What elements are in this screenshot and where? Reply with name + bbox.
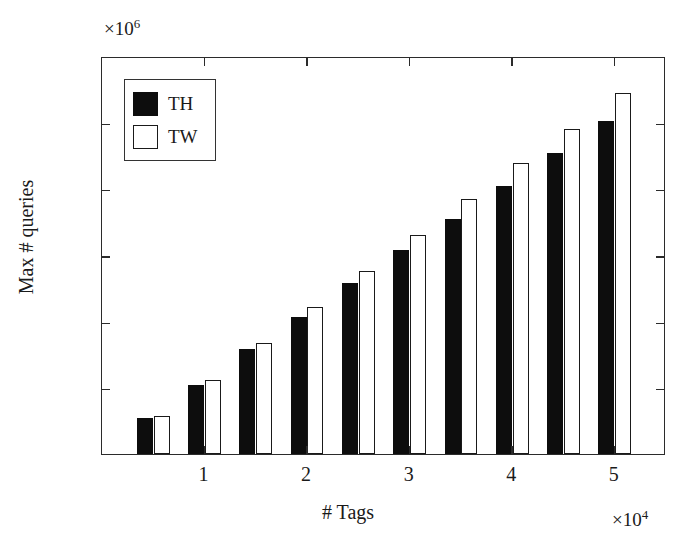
y-tick-mark-5: [656, 124, 664, 125]
bar-tw-10: [615, 93, 631, 454]
bar-tw-6: [410, 235, 426, 454]
y-tick-mark-2: [656, 323, 664, 324]
y-tick-mark-2: [102, 323, 110, 324]
x-tick-label-1: 2: [281, 463, 331, 485]
bar-tw-8: [513, 163, 529, 454]
y-tick-mark-3: [656, 256, 664, 257]
x-tick-mark-3: [511, 58, 512, 66]
x-tick-mark-4: [614, 58, 615, 66]
x-tick-label-0: 1: [179, 463, 229, 485]
legend-entry-th: TH: [133, 87, 209, 120]
x-tick-mark-0: [204, 446, 205, 454]
y-axis-exponent-base: ×10: [104, 18, 134, 39]
x-tick-mark-0: [204, 58, 205, 66]
bar-th-5: [342, 283, 358, 454]
bar-tw-7: [461, 199, 477, 454]
bar-th-9: [547, 153, 563, 454]
x-tick-mark-4: [614, 446, 615, 454]
bar-tw-2: [205, 380, 221, 454]
x-axis-exponent-base: ×10: [612, 509, 642, 530]
x-tick-mark-1: [306, 58, 307, 66]
bar-tw-9: [564, 129, 580, 454]
bar-th-6: [393, 250, 409, 454]
x-tick-label-3: 4: [486, 463, 536, 485]
y-tick-mark-1: [102, 389, 110, 390]
bar-th-2: [188, 385, 204, 454]
bar-th-3: [239, 349, 255, 454]
bar-th-10: [598, 121, 614, 454]
y-tick-mark-3: [102, 256, 110, 257]
x-tick-label-4: 5: [589, 463, 639, 485]
bar-tw-5: [359, 271, 375, 454]
legend-swatch-tw-icon: [133, 125, 158, 149]
legend-swatch-th-icon: [133, 92, 158, 116]
y-axis-exponent-power: 6: [134, 16, 141, 31]
legend-entry-tw: TW: [133, 120, 209, 153]
y-tick-mark-1: [656, 389, 664, 390]
x-tick-label-2: 3: [384, 463, 434, 485]
y-tick-mark-5: [102, 124, 110, 125]
bar-th-1: [137, 418, 153, 454]
bar-th-8: [496, 186, 512, 454]
legend-label-tw: TW: [168, 127, 198, 147]
bar-tw-3: [256, 343, 272, 454]
plot-area: TH TW: [101, 57, 665, 455]
chart-legend: TH TW: [124, 79, 216, 161]
x-tick-mark-3: [511, 446, 512, 454]
y-axis-exponent: ×106: [104, 14, 140, 39]
x-axis-exponent-power: 4: [642, 507, 649, 522]
y-tick-mark-4: [656, 190, 664, 191]
x-axis-exponent: ×104: [612, 505, 648, 530]
y-axis-label: Max # queries: [15, 147, 37, 327]
bar-th-4: [291, 317, 307, 454]
bar-tw-4: [307, 307, 323, 454]
legend-label-th: TH: [168, 94, 193, 114]
bar-tw-1: [154, 416, 170, 454]
y-tick-mark-4: [102, 190, 110, 191]
bar-chart-figure: ×106 Max # queries TH TW 00.511.522.5312…: [0, 0, 696, 551]
x-tick-mark-2: [409, 446, 410, 454]
x-axis-label: # Tags: [0, 501, 696, 523]
x-tick-mark-2: [409, 58, 410, 66]
bar-th-7: [445, 219, 461, 454]
x-tick-mark-1: [306, 446, 307, 454]
